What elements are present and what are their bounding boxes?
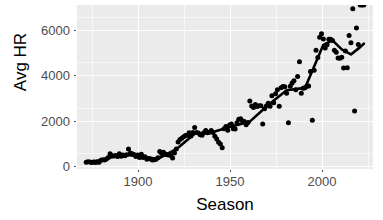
data-point (345, 65, 350, 70)
chart-container: Avg HR 6000 4000 2000 0 19 (0, 0, 383, 220)
x-tick-label-1950: 1950 (216, 174, 245, 189)
scatter-points (84, 5, 367, 165)
data-point (286, 120, 291, 125)
data-point (229, 121, 234, 126)
data-point (174, 146, 179, 151)
data-point (339, 55, 344, 60)
data-point (343, 49, 348, 54)
x-tick-mark-1900 (138, 170, 139, 172)
y-tick-label-0: 0 (63, 159, 70, 174)
y-tick-label-6000: 6000 (41, 23, 70, 38)
data-point (295, 74, 300, 79)
data-point (314, 48, 319, 53)
data-point (271, 100, 276, 105)
trend-line (86, 40, 364, 162)
y-tick-mark-4000 (74, 75, 76, 76)
data-point (334, 50, 339, 55)
data-point (312, 68, 317, 73)
x-tick-label-1900: 1900 (124, 174, 153, 189)
data-layer (77, 5, 373, 169)
x-tick-label-2000: 2000 (308, 174, 337, 189)
data-point (310, 118, 315, 123)
data-point (282, 84, 287, 89)
y-tick-mark-6000 (74, 30, 76, 31)
data-point (315, 55, 320, 60)
y-axis-title: Avg HR (11, 7, 31, 117)
data-point (233, 126, 238, 131)
data-point (192, 125, 197, 130)
x-tick-mark-2000 (322, 170, 323, 172)
data-point (330, 38, 335, 43)
data-point (306, 84, 311, 89)
data-point (260, 121, 265, 126)
data-point (321, 36, 326, 41)
data-point (297, 59, 302, 64)
data-point (319, 31, 324, 36)
data-point (293, 87, 298, 92)
data-point (356, 42, 361, 47)
data-point (348, 40, 353, 45)
data-point (299, 91, 304, 96)
data-point (352, 108, 357, 113)
y-tick-mark-0 (74, 166, 76, 167)
y-tick-label-2000: 2000 (41, 114, 70, 129)
data-point (268, 104, 273, 109)
data-point (284, 91, 289, 96)
plot-panel (77, 5, 373, 169)
x-axis-title: Season (77, 195, 373, 215)
data-point (325, 42, 330, 47)
data-point (220, 145, 225, 150)
data-point (225, 128, 230, 133)
data-point (347, 33, 352, 38)
data-point (155, 155, 160, 160)
data-point (247, 99, 252, 104)
y-tick-label-4000: 4000 (41, 68, 70, 83)
data-point (245, 120, 250, 125)
data-point (277, 104, 282, 109)
data-point (350, 6, 355, 11)
data-point (354, 26, 359, 31)
x-tick-mark-1950 (230, 170, 231, 172)
data-point (170, 156, 175, 161)
data-point (291, 78, 296, 83)
y-tick-mark-2000 (74, 121, 76, 122)
